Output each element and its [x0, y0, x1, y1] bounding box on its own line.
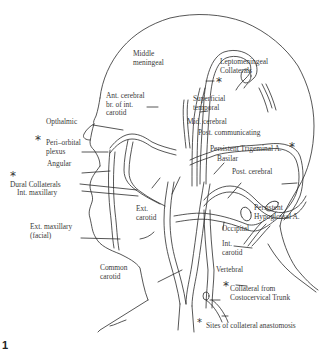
- label-common-carotid: Common carotid: [100, 264, 128, 281]
- legend-marker-icon: *: [197, 317, 202, 328]
- label-post-communicating: Post. communicating: [198, 129, 260, 138]
- label-ant-cerebral: Ant. cerebral br. of int. carotid: [106, 92, 145, 118]
- collateral-marker-peri-orbital: *: [35, 134, 41, 146]
- label-post-cerebral: Post. cerebral: [232, 168, 272, 177]
- label-middle-meningeal: Middle meningeal: [133, 50, 164, 67]
- head-arteries-illustration: [0, 0, 328, 356]
- legend: * Sites of collateral anastomosis: [197, 314, 296, 332]
- label-occipital: Occipital: [222, 225, 249, 234]
- face-profile: [90, 98, 100, 166]
- neck-back: [280, 226, 318, 290]
- collateral-marker-leptomeningeal: *: [216, 76, 222, 88]
- label-int-maxillary: Int. maxillary: [17, 189, 57, 198]
- label-basilar: Basilar: [217, 155, 238, 164]
- legend-text: Sites of collateral anastomosis: [206, 321, 296, 330]
- label-vertebral: Vertebral: [216, 266, 243, 275]
- label-ext-maxillary-facial: Ext. maxillary (facial): [30, 223, 72, 240]
- collateral-marker-persistent-trigeminal: *: [289, 141, 295, 153]
- label-superficial-temporal: Superficial temporal: [193, 95, 225, 112]
- label-opthalmic: Opthalmic: [46, 118, 77, 127]
- shoulder-line: [98, 300, 148, 332]
- figure-number: 1: [2, 339, 8, 351]
- label-collateral-costocervical: Collateral from Costocervical Trunk: [230, 285, 290, 302]
- label-ext-carotid: Ext. carotid: [136, 205, 157, 222]
- label-leptomeningeal-collaterals: Leptomeningeal Collaterals: [220, 58, 268, 75]
- label-persistent-hypoglossal: Persistent Hypoglossal A.: [254, 204, 300, 221]
- label-int-carotid: Int. carotid: [222, 240, 243, 257]
- label-angular: Angular: [47, 160, 71, 169]
- cerebral-arterial-anatomy-diagram: Middle meningeal Leptomeningeal Collater…: [0, 0, 328, 356]
- label-persistent-trigeminal: Persistent Trigeminal A.: [210, 145, 282, 154]
- label-mid-cerebral: Mid. cerebral: [187, 118, 227, 127]
- collateral-marker-costocervical: *: [223, 280, 229, 292]
- label-peri-orbital-plexus: Peri–orbital plexus: [46, 139, 81, 156]
- nose-outline: [83, 124, 94, 140]
